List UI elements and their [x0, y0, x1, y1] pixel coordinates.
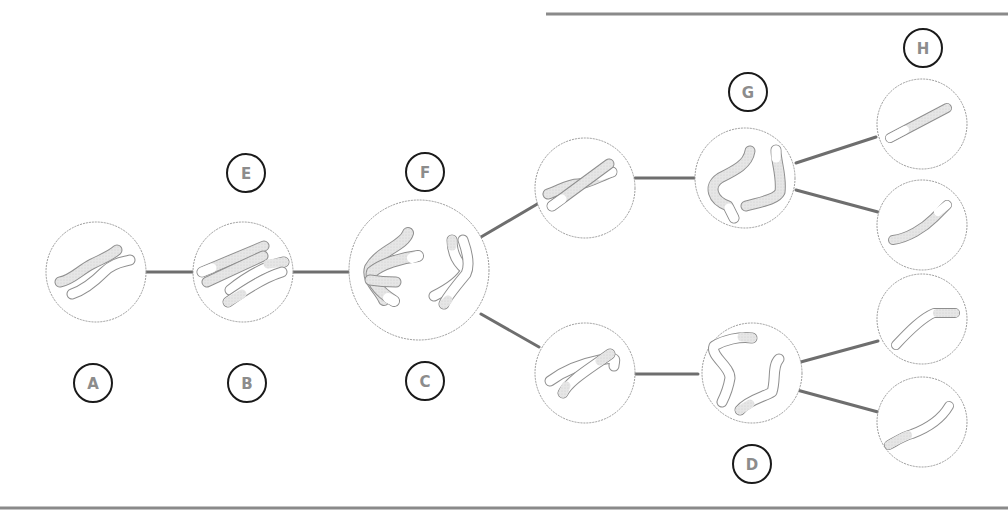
label-c: C — [406, 362, 444, 400]
cell-4 — [535, 138, 635, 238]
cell-6 — [695, 128, 795, 228]
label-d: D — [733, 445, 771, 483]
svg-text:A: A — [87, 375, 99, 393]
cell-5 — [535, 323, 635, 423]
svg-text:B: B — [241, 375, 252, 393]
cell-11 — [877, 377, 967, 467]
cell-2 — [193, 222, 293, 322]
label-g: G — [729, 73, 767, 111]
cell-7 — [702, 323, 802, 423]
label-e: E — [227, 154, 265, 192]
cell-10 — [877, 274, 967, 364]
svg-text:F: F — [420, 164, 430, 182]
cell-8 — [877, 79, 967, 169]
svg-text:H: H — [917, 40, 930, 58]
svg-text:D: D — [746, 456, 758, 474]
svg-text:C: C — [419, 373, 430, 391]
label-a: A — [74, 364, 112, 402]
cell-9 — [877, 180, 967, 270]
cell-3 — [349, 200, 489, 340]
cell-1 — [46, 222, 146, 322]
svg-text:E: E — [241, 165, 251, 183]
svg-text:G: G — [742, 84, 754, 102]
label-f: F — [406, 153, 444, 191]
label-b: B — [228, 364, 266, 402]
label-h: H — [904, 29, 942, 67]
meiosis-diagram: A B C D E F G H — [0, 0, 1008, 513]
